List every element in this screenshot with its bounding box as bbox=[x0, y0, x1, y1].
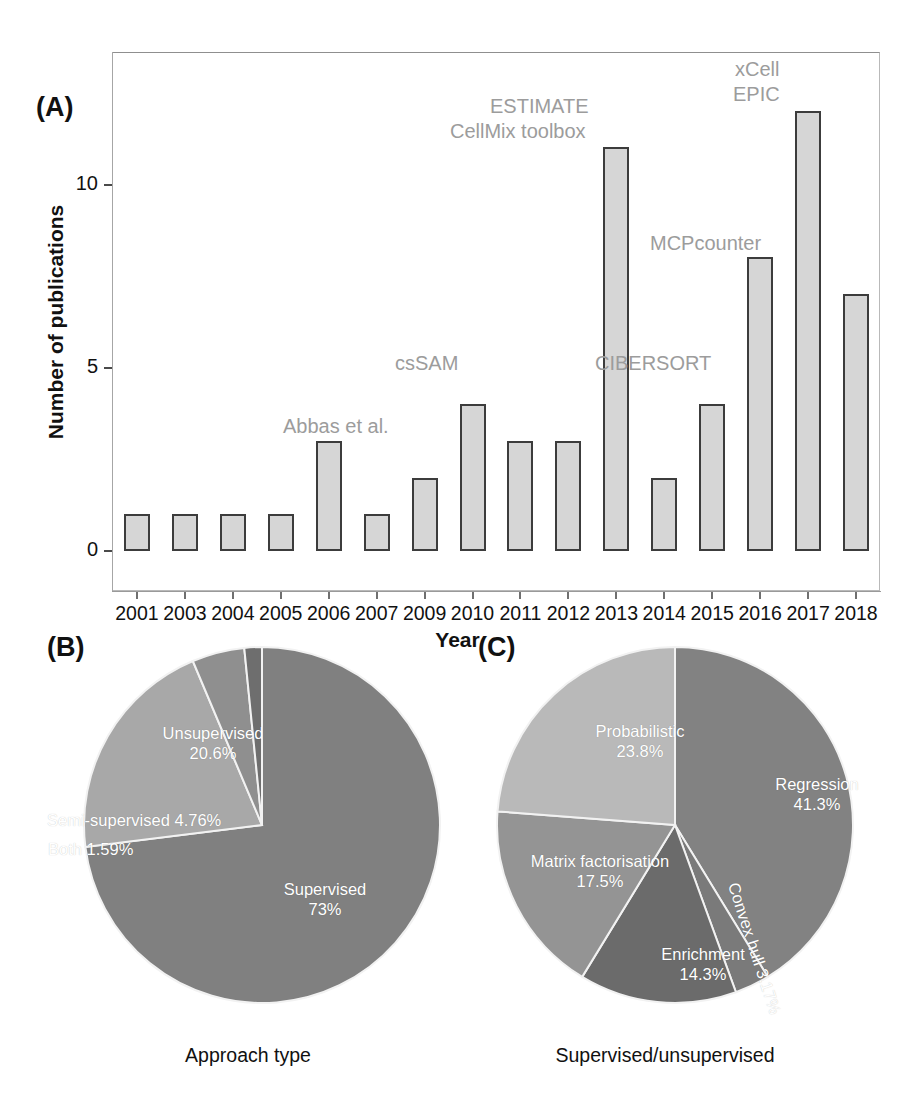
panel-b-caption: Approach type bbox=[38, 1044, 458, 1067]
slice-name-both: Both bbox=[48, 840, 82, 858]
slice-name-semi-supervised: Semi-supervised bbox=[47, 811, 170, 829]
bar-2007 bbox=[364, 514, 390, 551]
y-tick-10 bbox=[104, 184, 112, 186]
bar-2003 bbox=[172, 514, 198, 551]
bar-2011 bbox=[507, 441, 533, 551]
panel-a-label: (A) bbox=[36, 92, 73, 123]
slice-value-matrix-factorisation: 17.5% bbox=[577, 872, 624, 890]
bar-2018 bbox=[843, 294, 869, 551]
slice-label-unsupervised: Unsupervised 20.6% bbox=[123, 724, 303, 764]
slice-value-semi-supervised: 4.76% bbox=[174, 811, 221, 829]
x-tick-2004 bbox=[232, 592, 234, 599]
slice-label-both: Both 1.59% bbox=[48, 840, 133, 860]
bar-2010 bbox=[460, 404, 486, 551]
slice-value-enrichment: 14.3% bbox=[680, 965, 727, 983]
x-tick-2018 bbox=[855, 592, 857, 599]
annotation-cssam: csSAM bbox=[395, 352, 458, 376]
x-tick-2003 bbox=[184, 592, 186, 599]
bar-2013 bbox=[603, 147, 629, 551]
bar-2015 bbox=[699, 404, 725, 551]
x-tick-2005 bbox=[280, 592, 282, 599]
x-tick-2011 bbox=[519, 592, 521, 599]
annotation-cellmix: CellMix toolbox bbox=[450, 120, 586, 144]
slice-value-probabilistic: 23.8% bbox=[617, 742, 664, 760]
panel-a-bar-chart: (A) 0 5 10 Number of publications Year 2… bbox=[0, 40, 915, 630]
slice-name-unsupervised: Unsupervised bbox=[163, 724, 264, 742]
x-tick-2017 bbox=[807, 592, 809, 599]
y-tick-5 bbox=[104, 367, 112, 369]
bar-2001 bbox=[124, 514, 150, 551]
annotation-abbas: Abbas et al. bbox=[283, 415, 389, 439]
slice-name-supervised: Supervised bbox=[284, 880, 367, 898]
slice-value-regression: 41.3% bbox=[794, 795, 841, 813]
x-tick-2013 bbox=[615, 592, 617, 599]
x-tick-2009 bbox=[424, 592, 426, 599]
bar-2009 bbox=[412, 478, 438, 551]
bar-2005 bbox=[268, 514, 294, 551]
bar-2014 bbox=[651, 478, 677, 551]
bar-2004 bbox=[220, 514, 246, 551]
annotation-estimate: ESTIMATE bbox=[490, 95, 589, 119]
annotation-cibersort: CIBERSORT bbox=[595, 352, 711, 376]
x-tick-2010 bbox=[472, 592, 474, 599]
slice-name-regression: Regression bbox=[775, 775, 858, 793]
slice-label-matrix-factorisation: Matrix factorisation 17.5% bbox=[505, 852, 695, 892]
annotation-epic: EPIC bbox=[733, 83, 780, 107]
slice-name-enrichment: Enrichment bbox=[661, 945, 744, 963]
slice-name-matrix-factorisation: Matrix factorisation bbox=[531, 852, 669, 870]
x-tick-2016 bbox=[759, 592, 761, 599]
annotation-mcpcounter: MCPcounter bbox=[650, 232, 761, 256]
x-tick-2001 bbox=[136, 592, 138, 599]
slice-name-probabilistic: Probabilistic bbox=[596, 722, 685, 740]
annotation-xcell: xCell bbox=[735, 58, 779, 82]
panel-b-label: (B) bbox=[47, 632, 84, 663]
bar-2006 bbox=[316, 441, 342, 551]
slice-value-unsupervised: 20.6% bbox=[190, 744, 237, 762]
bar-2017 bbox=[795, 111, 821, 551]
slice-value-both: 1.59% bbox=[87, 840, 134, 858]
y-axis-line bbox=[112, 52, 113, 592]
x-tick-2015 bbox=[711, 592, 713, 599]
bar-2012 bbox=[555, 441, 581, 551]
x-tick-2007 bbox=[376, 592, 378, 599]
slice-label-semi-supervised: Semi-supervised 4.76% bbox=[47, 811, 221, 831]
y-axis-title: Number of publications bbox=[44, 172, 68, 472]
y-tick-0 bbox=[104, 550, 112, 552]
y-tick-label-0: 0 bbox=[38, 538, 98, 561]
slice-label-probabilistic: Probabilistic 23.8% bbox=[560, 722, 720, 762]
slice-label-supervised: Supervised 73% bbox=[250, 880, 400, 920]
x-axis-line bbox=[112, 591, 881, 592]
bar-2016 bbox=[747, 257, 773, 551]
slice-label-regression: Regression 41.3% bbox=[742, 775, 892, 815]
x-tick-2012 bbox=[567, 592, 569, 599]
x-tick-2014 bbox=[663, 592, 665, 599]
x-tick-label-2018: 2018 bbox=[824, 602, 888, 625]
x-tick-2006 bbox=[328, 592, 330, 599]
slice-value-supervised: 73% bbox=[308, 900, 341, 918]
panel-c-caption: Supervised/unsupervised bbox=[455, 1044, 875, 1067]
